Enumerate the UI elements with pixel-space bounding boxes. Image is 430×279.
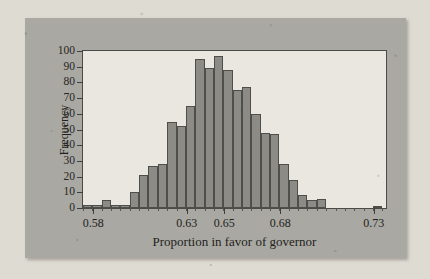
y-axis-tick-label: 60 [64, 108, 76, 120]
x-axis-minor-tick [261, 208, 262, 211]
histogram-bar [158, 164, 167, 208]
x-axis-minor-tick [270, 208, 271, 211]
x-axis-minor-tick [195, 208, 196, 211]
y-axis-tick-label: 100 [58, 45, 75, 57]
histogram-bar [148, 166, 157, 208]
histogram-bars [83, 51, 386, 208]
x-axis-tick-label: 0.58 [83, 217, 104, 229]
histogram-bar [242, 87, 251, 208]
y-axis-tick-label: 10 [64, 187, 76, 199]
x-axis-minor-tick [233, 208, 234, 211]
histogram-bar [251, 114, 260, 208]
x-axis-minor-tick [326, 208, 327, 211]
histogram-bar [298, 195, 307, 208]
x-axis-tick-label: 0.73 [363, 217, 384, 229]
x-axis-minor-tick [205, 208, 206, 211]
histogram-bar [139, 175, 148, 208]
x-axis-minor-tick [148, 208, 149, 211]
figure-page: Frequency 0102030405060708090100 0.580.6… [0, 0, 430, 279]
y-axis-tick-label: 50 [64, 124, 76, 136]
x-axis-tick [93, 208, 94, 214]
x-axis-minor-tick [120, 208, 121, 211]
histogram-bar [102, 200, 111, 208]
histogram-bar [167, 122, 176, 208]
histogram-bar [289, 180, 298, 208]
x-axis-minor-tick [139, 208, 140, 211]
x-axis-minor-tick [158, 208, 159, 211]
x-axis-tick-label: 0.63 [176, 217, 197, 229]
x-axis-tick [224, 208, 225, 214]
x-axis-minor-tick [317, 208, 318, 211]
x-axis-minor-tick [111, 208, 112, 211]
x-axis-minor-tick [354, 208, 355, 211]
histogram-bar [111, 205, 120, 208]
y-axis-tick-label: 40 [64, 139, 76, 151]
histogram-bar [223, 70, 232, 208]
x-axis-minor-tick [345, 208, 346, 211]
x-axis-minor-tick [364, 208, 365, 211]
x-axis-minor-tick [102, 208, 103, 211]
histogram-bar [186, 106, 195, 208]
x-axis-minor-tick [382, 208, 383, 211]
y-axis-tick-label: 80 [64, 77, 76, 89]
histogram-bar [120, 205, 129, 208]
x-axis-tick [187, 208, 188, 214]
x-axis-title: Proportion in favor of governor [153, 234, 317, 250]
x-axis-minor-tick [289, 208, 290, 211]
y-axis-tick-label: 0 [69, 202, 75, 214]
histogram-bar [83, 205, 92, 208]
x-axis-minor-tick [336, 208, 337, 211]
x-axis-tick-label: 0.65 [214, 217, 235, 229]
histogram-bar [205, 68, 214, 208]
x-axis-minor-tick [242, 208, 243, 211]
x-axis-tick-label: 0.68 [270, 217, 291, 229]
x-axis-minor-tick [83, 208, 84, 211]
histogram-bar [307, 200, 316, 208]
x-axis-minor-tick [130, 208, 131, 211]
y-axis-tick-label: 90 [64, 61, 76, 73]
x-axis-tick [280, 208, 281, 214]
x-axis-minor-tick [251, 208, 252, 211]
x-axis-tick [374, 208, 375, 214]
histogram-bar [317, 199, 326, 208]
y-axis-tick-label: 70 [64, 92, 76, 104]
histogram-bar [177, 126, 186, 208]
plot-area: Frequency 0102030405060708090100 0.580.6… [82, 50, 387, 209]
histogram-bar [261, 133, 270, 208]
x-axis-minor-tick [307, 208, 308, 211]
y-axis-tick-label: 20 [64, 171, 76, 183]
histogram-bar [279, 164, 288, 208]
x-axis-minor-tick [214, 208, 215, 211]
histogram-bar [195, 59, 204, 208]
x-axis-minor-tick [177, 208, 178, 211]
histogram-bar [270, 134, 279, 208]
x-axis-minor-tick [167, 208, 168, 211]
x-axis-minor-tick [298, 208, 299, 211]
histogram-figure-panel: Frequency 0102030405060708090100 0.580.6… [25, 18, 406, 258]
histogram-bar [214, 56, 223, 208]
histogram-bar [130, 192, 139, 208]
y-axis-tick-label: 30 [64, 155, 76, 167]
histogram-bar [233, 90, 242, 208]
